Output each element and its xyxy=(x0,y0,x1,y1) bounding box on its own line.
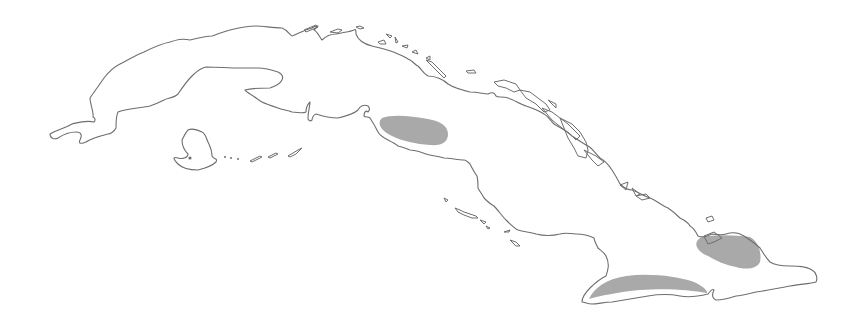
island-marker-dot xyxy=(188,156,191,159)
northern-cays xyxy=(304,25,722,244)
cuba-map xyxy=(0,0,863,324)
canarreos-cays xyxy=(224,148,302,162)
isla-de-la-juventud xyxy=(174,129,217,170)
map-container xyxy=(0,0,863,324)
shaded-region-southeast xyxy=(589,275,707,299)
